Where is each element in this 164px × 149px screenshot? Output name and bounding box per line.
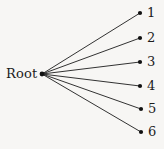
leaf-node-dot[interactable] — [138, 60, 142, 64]
leaf-node-dot[interactable] — [138, 36, 142, 40]
leaf-node-label: 5 — [148, 102, 156, 116]
diagram-canvas: Root 123456 — [0, 0, 164, 149]
edge-group — [42, 13, 141, 132]
tree-edge — [42, 74, 141, 132]
root-node-label: Root — [6, 65, 37, 82]
leaf-node-label: 2 — [147, 31, 155, 45]
root-node-dot[interactable] — [40, 72, 45, 77]
leaf-node-label: 4 — [147, 79, 155, 93]
tree-edge — [42, 62, 140, 74]
leaf-node-label: 6 — [148, 125, 156, 139]
leaf-node-dot[interactable] — [138, 11, 142, 15]
leaf-node-dot[interactable] — [138, 84, 142, 88]
leaf-node-label: 3 — [147, 55, 155, 69]
tree-edge — [42, 74, 141, 109]
leaf-node-dot[interactable] — [139, 107, 143, 111]
leaf-node-dot[interactable] — [139, 130, 143, 134]
leaf-node-label: 1 — [147, 6, 155, 20]
tree-edge — [42, 74, 140, 86]
